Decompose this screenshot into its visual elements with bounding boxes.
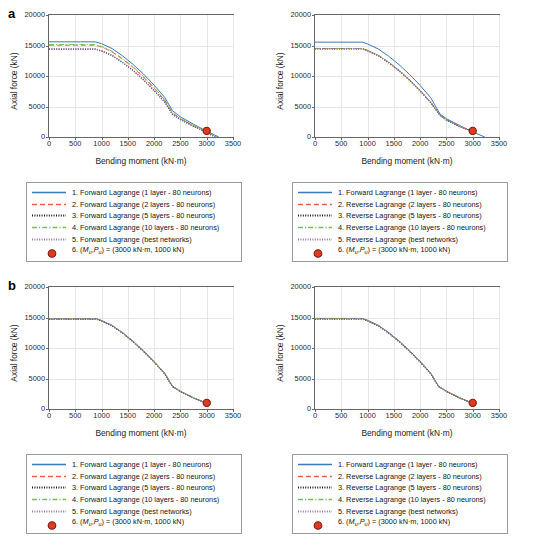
legend-marker-swatch [297,517,333,528]
chart-curves [49,287,233,409]
x-tick-label: 2500 [438,412,454,419]
y-tick-label: 15000 [290,42,311,49]
series-line-2 [315,319,473,403]
legend-item: 2. Reverse Lagrange (2 layers - 80 neuro… [297,199,502,211]
gridline-vertical [233,15,234,137]
legend-line-swatch [297,494,333,505]
panel-b-right: Axial force (kN) Bending moment (kN·m) 0… [266,272,532,544]
y-tick-label: 15000 [290,314,311,321]
legend-item-target-point: 6. (Mu,Pu) = (3000 kN·m, 1000 kN) [31,517,236,529]
y-tick-label: 10000 [24,72,45,79]
legend-item-target-point: 6. (Mu,Pu) = (3000 kN·m, 1000 kN) [297,245,502,257]
series-line-5 [315,319,473,403]
legend-line-swatch [297,482,333,493]
legend-label-target-point: 6. (Mu,Pu) = (3000 kN·m, 1000 kN) [338,518,450,528]
legend-label: 2. Forward Lagrange (2 layers - 80 neuro… [72,473,215,480]
y-tick-label: 20000 [24,11,45,18]
x-tick-label: 0 [47,140,51,147]
y-tick-label: 20000 [290,11,311,18]
x-tick-label: 1500 [120,412,136,419]
y-tick-label: 15000 [24,314,45,321]
legend-b-left: 1. Forward Lagrange (1 layer - 80 neuron… [26,454,242,534]
legend-line-swatch [297,199,333,210]
x-tick-label: 3500 [491,140,507,147]
legend-label: 1. Forward Lagrange (1 layer - 80 neuron… [72,461,212,468]
x-tick-label: 500 [69,412,81,419]
legend-label-target-point: 6. (Mu,Pu) = (3000 kN·m, 1000 kN) [72,518,184,528]
gridline-vertical [233,287,234,409]
legend-item-target-point: 6. (Mu,Pu) = (3000 kN·m, 1000 kN) [31,245,236,257]
legend-label: 2. Reverse Lagrange (2 layers - 80 neuro… [338,201,482,208]
panel-a-left: a Axial force (kN) Bending moment (kN·m)… [0,0,266,272]
legend-item: 5. Forward Lagrange (best networks) [31,233,236,245]
target-point-icon [314,250,322,258]
y-tick-label: 0 [307,133,311,140]
legend-line-swatch [31,222,67,233]
x-tick-label: 2000 [146,140,162,147]
series-line-1 [315,318,473,403]
legend-line-swatch [297,459,333,470]
y-axis-label: Axial force (kN) [275,26,285,136]
legend-item: 4. Forward Lagrange (10 layers - 80 neur… [31,222,236,234]
legend-item: 5. Reverse Lagrange (best networks) [297,505,502,517]
plot-frame: 0500100015002000250030003500050001000015… [314,286,500,410]
legend-label: 4. Forward Lagrange (10 layers - 80 neur… [72,496,219,503]
legend-item: 1. Forward Lagrange (1 layer - 80 neuron… [31,187,236,199]
x-tick-label: 2000 [412,140,428,147]
y-axis-label: Axial force (kN) [9,298,19,408]
legend-label: 2. Forward Lagrange (2 layers - 80 neuro… [72,201,215,208]
target-point-marker [203,399,210,406]
series-line-5 [49,319,207,403]
plot-area-b-right: Axial force (kN) Bending moment (kN·m) 0… [266,276,532,446]
legend-line-swatch [297,471,333,482]
series-line-3 [315,49,473,131]
figure-root: a Axial force (kN) Bending moment (kN·m)… [0,0,533,545]
legend-label: 1. Forward Lagrange (1 layer - 80 neuron… [338,461,478,468]
x-tick-label: 1000 [93,140,109,147]
y-tick-label: 10000 [290,72,311,79]
legend-line-swatch [31,459,67,470]
legend-item: 3. Reverse Lagrange (5 layers - 80 neuro… [297,210,502,222]
legend-label: 3. Forward Lagrange (5 layers - 80 neuro… [72,484,215,491]
legend-label: 1. Forward Lagrange (1 layer - 80 neuron… [338,189,478,196]
chart-curves [315,287,499,409]
x-tick-label: 3500 [491,412,507,419]
legend-line-swatch [31,187,67,198]
legend-item: 3. Forward Lagrange (5 layers - 80 neuro… [31,210,236,222]
legend-label: 3. Reverse Lagrange (5 layers - 80 neuro… [338,212,482,219]
legend-line-swatch [31,210,67,221]
x-axis-label: Bending moment (kN·m) [48,156,234,166]
legend-item: 2. Reverse Lagrange (2 layers - 80 neuro… [297,471,502,483]
x-tick-label: 2500 [172,412,188,419]
y-tick-label: 0 [307,405,311,412]
legend-label: 1. Forward Lagrange (1 layer - 80 neuron… [72,189,212,196]
series-line-1 [315,42,485,137]
series-line-1 [49,319,207,403]
y-tick-label: 15000 [24,42,45,49]
legend-a-right: 1. Forward Lagrange (1 layer - 80 neuron… [292,182,508,262]
legend-label: 4. Reverse Lagrange (10 layers - 80 neur… [338,224,486,231]
x-axis-label: Bending moment (kN·m) [314,428,500,438]
x-tick-label: 3500 [225,412,241,419]
legend-label: 5. Reverse Lagrange (best networks) [338,508,458,515]
series-line-5 [315,49,473,132]
legend-line-swatch [297,210,333,221]
legend-item: 5. Reverse Lagrange (best networks) [297,233,502,245]
legend-item: 4. Forward Lagrange (10 layers - 80 neur… [31,494,236,506]
legend-item: 2. Forward Lagrange (2 layers - 80 neuro… [31,199,236,211]
legend-line-swatch [31,482,67,493]
target-point-icon [48,250,56,258]
y-tick-label: 20000 [290,283,311,290]
x-tick-label: 0 [47,412,51,419]
y-axis-label: Axial force (kN) [9,26,19,136]
legend-label: 4. Reverse Lagrange (10 layers - 80 neur… [338,496,486,503]
y-tick-mark [312,137,315,138]
y-tick-label: 20000 [24,283,45,290]
legend-marker-swatch [297,245,333,256]
legend-item: 4. Reverse Lagrange (10 layers - 80 neur… [297,222,502,234]
legend-b-right: 1. Forward Lagrange (1 layer - 80 neuron… [292,454,508,534]
legend-item: 5. Forward Lagrange (best networks) [31,505,236,517]
target-point-icon [48,522,56,530]
legend-item: 1. Forward Lagrange (1 layer - 80 neuron… [297,459,502,471]
gridline-vertical [499,287,500,409]
